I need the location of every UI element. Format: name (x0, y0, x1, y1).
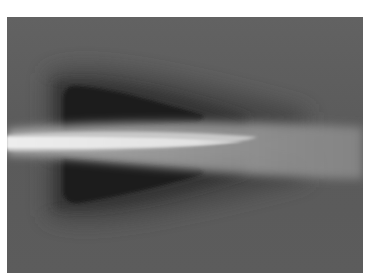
field-image (7, 17, 363, 273)
field-visualization (7, 17, 363, 273)
